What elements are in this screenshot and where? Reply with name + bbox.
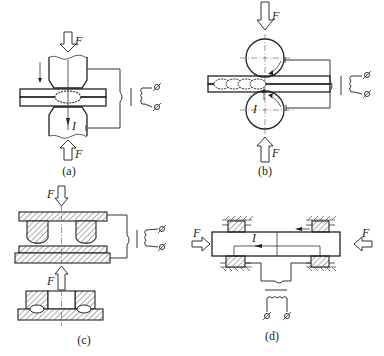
force-label: F	[46, 187, 55, 201]
current-label: I	[252, 102, 258, 116]
panel-b-seam-welding: F I F	[208, 2, 371, 178]
panel-caption: (b)	[258, 164, 272, 178]
panel-caption: (d)	[265, 329, 279, 343]
force-label: F	[361, 226, 370, 240]
resistance-welding-diagram: F I F	[0, 0, 384, 356]
panel-c-projection-welding: F F (c)	[15, 186, 166, 347]
force-arrow-down-icon	[55, 186, 68, 206]
force-arrow-down-icon	[60, 32, 76, 52]
force-label: F	[271, 146, 280, 160]
transformer-icon	[137, 225, 166, 251]
force-arrow-up-icon	[60, 140, 76, 160]
force-label: F	[271, 9, 280, 23]
panel-a-spot-welding: F I F	[20, 32, 161, 178]
current-label: I	[251, 231, 257, 245]
panel-d-butt-welding: F F	[192, 216, 372, 343]
force-label: F	[192, 226, 201, 240]
force-label: F	[74, 34, 83, 48]
force-label: F	[46, 274, 55, 288]
current-label: I	[71, 119, 77, 133]
force-label: F	[74, 147, 83, 161]
force-arrow-up-icon	[257, 137, 273, 162]
force-arrow-down-icon	[257, 2, 273, 30]
transformer-icon	[131, 83, 161, 111]
force-arrow-up-icon	[55, 266, 68, 290]
transformer-icon	[341, 71, 371, 98]
transformer-icon	[263, 290, 291, 320]
panel-caption: (a)	[62, 164, 75, 178]
panel-caption: (c)	[77, 333, 90, 347]
